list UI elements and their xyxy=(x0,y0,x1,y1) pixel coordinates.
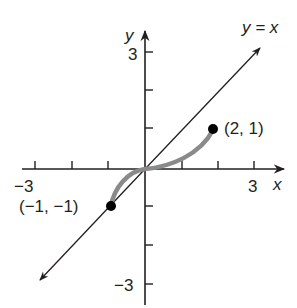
function-curve xyxy=(111,130,213,206)
point-2-1 xyxy=(208,124,218,134)
point-label-2-1: (2, 1) xyxy=(224,119,264,138)
x-axis-label: x xyxy=(272,175,282,194)
y-axis-label: y xyxy=(124,26,135,45)
x-tick-label-neg3: −3 xyxy=(14,177,33,196)
identity-line xyxy=(145,48,260,169)
point-label-neg1-neg1: (−1, −1) xyxy=(19,197,79,216)
line-label: y = x xyxy=(241,18,279,37)
identity-line-lower xyxy=(40,169,145,280)
y-tick-label-3: 3 xyxy=(128,45,137,64)
point-neg1-neg1 xyxy=(106,201,116,211)
chart: y = x y 3 −3 −3 3 x (2, 1) (−1, −1) xyxy=(0,0,297,308)
y-tick-label-neg3: −3 xyxy=(114,276,133,295)
x-tick-label-3: 3 xyxy=(248,177,257,196)
